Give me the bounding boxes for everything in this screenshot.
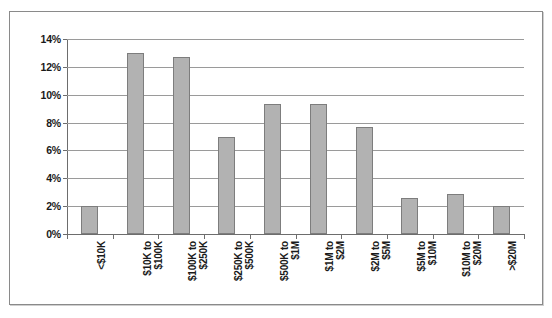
x-tick-mark (67, 234, 68, 239)
y-tick-mark (63, 123, 67, 124)
y-tick-mark (63, 178, 67, 179)
y-tick-mark (63, 67, 67, 68)
x-tick-mark (158, 234, 159, 239)
x-tick-mark (433, 234, 434, 239)
x-tick-label: $100K to$250K (188, 241, 209, 281)
y-tick-label: 4% (46, 172, 61, 184)
x-tick-label: $250K to$500K (234, 241, 255, 281)
chart-frame: 14%12%10%8%6%4%2%0% <$10K$10K to$100K$10… (9, 11, 543, 305)
plot-area: 14%12%10%8%6%4%2%0% (67, 39, 524, 234)
y-tick-label: 2% (46, 200, 61, 212)
bar (310, 104, 327, 234)
x-tick-mark (524, 234, 525, 239)
y-tick-label: 6% (46, 144, 61, 156)
y-axis-line (67, 39, 68, 234)
bar (447, 194, 464, 234)
x-tick-label: $2M to$5M (371, 241, 392, 271)
bar (264, 104, 281, 234)
x-axis-ticks (67, 234, 524, 239)
x-axis-tick-labels: <$10K$10K to$100K$100K to$250K$250K to$5… (67, 241, 524, 303)
x-tick-mark (204, 234, 205, 239)
bar (218, 137, 235, 235)
x-tick-mark (250, 234, 251, 239)
y-tick-label: 12% (41, 61, 61, 73)
x-tick-mark (341, 234, 342, 239)
y-tick-label: 0% (46, 228, 61, 240)
x-tick-label: $10K to$100K (143, 241, 164, 276)
x-tick-label: $1M to$2M (325, 241, 346, 271)
bar (81, 206, 98, 234)
y-tick-mark (63, 206, 67, 207)
x-tick-label: $500K to$1M (280, 241, 301, 281)
bar (356, 127, 373, 234)
x-tick-label: >$20M (508, 241, 519, 271)
gridline (67, 39, 524, 40)
bar (127, 53, 144, 234)
x-tick-label: <$10K (97, 241, 108, 270)
x-tick-mark (478, 234, 479, 239)
y-tick-mark (63, 150, 67, 151)
y-tick-mark (63, 39, 67, 40)
x-tick-label: $5M to$10M (417, 241, 438, 271)
bar (173, 57, 190, 234)
y-tick-label: 10% (41, 89, 61, 101)
y-tick-mark (63, 95, 67, 96)
x-tick-mark (113, 234, 114, 239)
y-tick-label: 14% (41, 33, 61, 45)
bar (401, 198, 418, 234)
y-tick-label: 8% (46, 117, 61, 129)
x-tick-mark (296, 234, 297, 239)
x-tick-mark (387, 234, 388, 239)
bar (493, 206, 510, 234)
x-tick-label: $10M to$20M (462, 241, 483, 277)
